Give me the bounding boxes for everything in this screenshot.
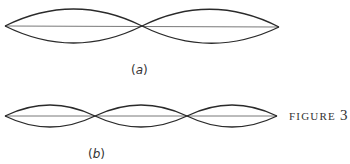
panel-b-label-close: ) bbox=[100, 147, 105, 161]
panel-b-loop-2-upper bbox=[95, 105, 187, 116]
panel-b-loop-2-lower bbox=[95, 116, 187, 127]
panel-a-label: (a) bbox=[131, 63, 148, 77]
panel-a-label-close: ) bbox=[143, 63, 148, 77]
figure-caption: FIGURE 3 bbox=[289, 107, 347, 124]
figure-caption-number: 3 bbox=[340, 107, 348, 123]
figure-caption-word: FIGURE bbox=[289, 110, 336, 122]
panel-a-loop-2-upper bbox=[142, 9, 279, 27]
panel-b-loop-3-lower bbox=[187, 116, 277, 127]
standing-wave-diagram bbox=[0, 0, 350, 164]
panel-b-loop-1-upper bbox=[5, 105, 95, 116]
panel-a-loop-1-lower bbox=[5, 26, 142, 43]
panel-a-wave bbox=[5, 9, 279, 43]
panel-b-label: (b) bbox=[88, 147, 105, 161]
panel-b-wave bbox=[5, 105, 277, 127]
panel-a-label-letter: a bbox=[136, 63, 143, 77]
panel-a-loop-1-upper bbox=[5, 9, 142, 26]
panel-b-loop-3-upper bbox=[187, 105, 277, 116]
panel-b-loop-1-lower bbox=[5, 116, 95, 127]
panel-a-loop-2-lower bbox=[142, 26, 279, 43]
